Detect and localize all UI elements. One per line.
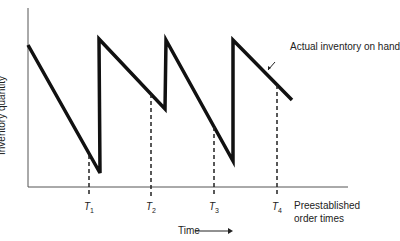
tick-t4: T4 (272, 201, 282, 214)
note-line1: Preestablished (294, 200, 360, 211)
tick-t1: T1 (84, 201, 94, 214)
x-axis-label: Time (178, 225, 200, 236)
annotation-label: Actual inventory on hand (290, 41, 400, 52)
y-axis-label: Inventory quantity (0, 76, 7, 155)
inventory-line (28, 39, 292, 173)
tick-t2: T2 (146, 201, 156, 214)
note-line2: order times (294, 213, 344, 224)
tick-t3: T3 (209, 201, 219, 214)
